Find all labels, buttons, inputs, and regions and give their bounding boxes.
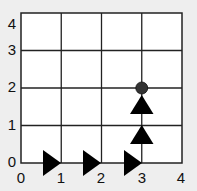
grid: [21, 13, 182, 163]
y-tick-3: 3: [8, 41, 16, 58]
x-tick-2: 2: [97, 169, 105, 186]
x-tick-0: 0: [17, 169, 25, 186]
x-axis-labels: 0 1 2 3 4: [17, 169, 185, 186]
x-tick-4: 4: [177, 169, 185, 186]
grid-diagram: 0 1 2 3 4 0 1 2 3 4: [0, 0, 197, 191]
y-tick-1: 1: [8, 116, 16, 133]
y-tick-2: 2: [8, 78, 16, 95]
x-tick-1: 1: [57, 169, 65, 186]
y-tick-0: 0: [8, 153, 16, 170]
endpoint-circle-icon: [136, 82, 148, 94]
y-tick-4: 4: [8, 15, 16, 32]
x-tick-3: 3: [138, 169, 146, 186]
y-axis-labels: 0 1 2 3 4: [8, 15, 16, 170]
